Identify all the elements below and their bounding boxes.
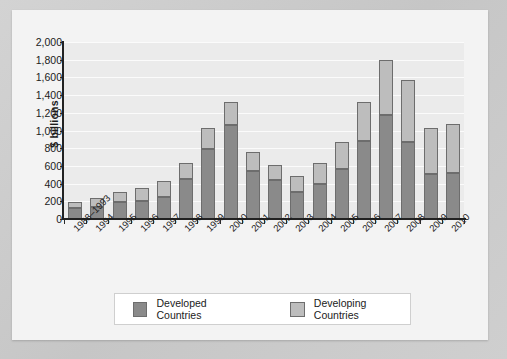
bar-segment-developing[interactable] [379,60,393,116]
x-axis-tick-mark [197,220,198,224]
y-axis-tick-labels: 2,0001,8001,6001,4001,2001,0008006004002… [12,10,62,340]
bar-segment-developed[interactable] [357,141,371,219]
bar-segment-developing[interactable] [157,181,171,197]
bar-segment-developing[interactable] [446,124,460,173]
bar-group[interactable] [179,42,193,219]
bar-segment-developed[interactable] [179,179,193,219]
x-axis-tick-mark [442,220,443,224]
x-axis-tick-mark [131,220,132,224]
y-axis-tick-label: 1,200 [16,108,62,118]
x-axis-tick-mark [397,220,398,224]
y-axis-tick-label: 1,800 [16,55,62,65]
y-axis-tick-label: 0 [16,214,62,224]
x-axis-tick-mark [420,220,421,224]
bar-segment-developing[interactable] [135,188,149,201]
bar-segment-developing[interactable] [424,128,438,174]
x-axis-tick-mark [375,220,376,224]
bar-segment-developed[interactable] [401,142,415,219]
y-axis-tick-label: 200 [16,196,62,206]
bar-segment-developing[interactable] [224,102,238,125]
x-axis-tick-mark [264,220,265,224]
bar-segment-developing[interactable] [179,163,193,179]
bar-group[interactable] [424,42,438,219]
bar-group[interactable] [113,42,127,219]
bar-segment-developed[interactable] [379,115,393,219]
bar-segment-developed[interactable] [201,149,215,219]
chart-card: $ billions 2,0001,8001,6001,4001,2001,00… [12,10,488,340]
bar-group[interactable] [157,42,171,219]
bar-segment-developed[interactable] [224,125,238,219]
x-axis-tick-mark [331,220,332,224]
bar-segment-developed[interactable] [268,180,282,219]
y-axis-tick-label: 400 [16,179,62,189]
bar-group[interactable] [201,42,215,219]
x-axis-tick-mark [286,220,287,224]
legend-item-developing: Developing Countries [290,297,410,321]
bar-segment-developed[interactable] [246,171,260,219]
bar-group[interactable] [246,42,260,219]
bar-segment-developing[interactable] [201,128,215,149]
bar-segment-developed[interactable] [446,173,460,219]
bar-group[interactable] [379,42,393,219]
y-axis-tick-label: 800 [16,143,62,153]
bar-segment-developed[interactable] [424,174,438,219]
y-axis-tick-label: 2,000 [16,37,62,47]
y-axis-tick-label: 1,600 [16,72,62,82]
legend-swatch-developing-icon [290,302,304,317]
legend-label-developed: Developed Countries [156,297,250,321]
bar-group[interactable] [401,42,415,219]
x-axis-tick-mark [308,220,309,224]
x-axis-tick-mark [86,220,87,224]
bar-group[interactable] [290,42,304,219]
x-axis-tick-mark [220,220,221,224]
x-axis-tick-mark [242,220,243,224]
legend-item-developed: Developed Countries [133,297,250,321]
bar-group[interactable] [313,42,327,219]
bar-group[interactable] [268,42,282,219]
legend-swatch-developed-icon [133,302,147,317]
figure-root: $ billions 2,0001,8001,6001,4001,2001,00… [0,0,507,359]
bar-group[interactable] [335,42,349,219]
bar-group[interactable] [446,42,460,219]
x-axis-tick-mark [108,220,109,224]
bar-chart: $ billions 2,0001,8001,6001,4001,2001,00… [12,10,488,340]
x-axis-tick-mark [64,220,65,224]
bar-segment-developing[interactable] [113,192,127,203]
x-axis-tick-mark [175,220,176,224]
legend-label-developing: Developing Countries [314,297,410,321]
bar-group[interactable] [68,42,82,219]
bar-segment-developing[interactable] [313,163,327,183]
bar-segment-developing[interactable] [335,142,349,169]
x-axis-tick-mark [353,220,354,224]
bar-group[interactable] [357,42,371,219]
bar-segment-developing[interactable] [290,176,304,192]
bar-segment-developed[interactable] [313,184,327,219]
bar-segment-developing[interactable] [357,102,371,141]
y-axis-line [62,41,64,220]
x-axis-tick-mark [464,220,465,224]
y-axis-tick-label: 1,000 [16,126,62,136]
chart-legend: Developed Countries Developing Countries [114,293,411,325]
y-axis-tick-label: 600 [16,161,62,171]
plot-area [64,42,464,219]
x-axis-tick-mark [153,220,154,224]
bar-segment-developing[interactable] [68,202,82,207]
y-axis-tick-label: 1,400 [16,90,62,100]
bar-segment-developing[interactable] [401,80,415,142]
bar-segment-developed[interactable] [335,169,349,219]
bar-segment-developing[interactable] [246,152,260,171]
bar-group[interactable] [135,42,149,219]
bar-group[interactable] [224,42,238,219]
bar-group[interactable] [90,42,104,219]
bar-segment-developing[interactable] [268,165,282,180]
